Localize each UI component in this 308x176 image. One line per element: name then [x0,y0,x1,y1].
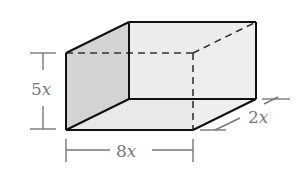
depth-label: 2x [248,107,269,127]
height-label: 5x [31,79,52,99]
length-label: 8x [116,141,137,161]
rectangular-prism-diagram: 5x 8x 2x [0,0,308,176]
